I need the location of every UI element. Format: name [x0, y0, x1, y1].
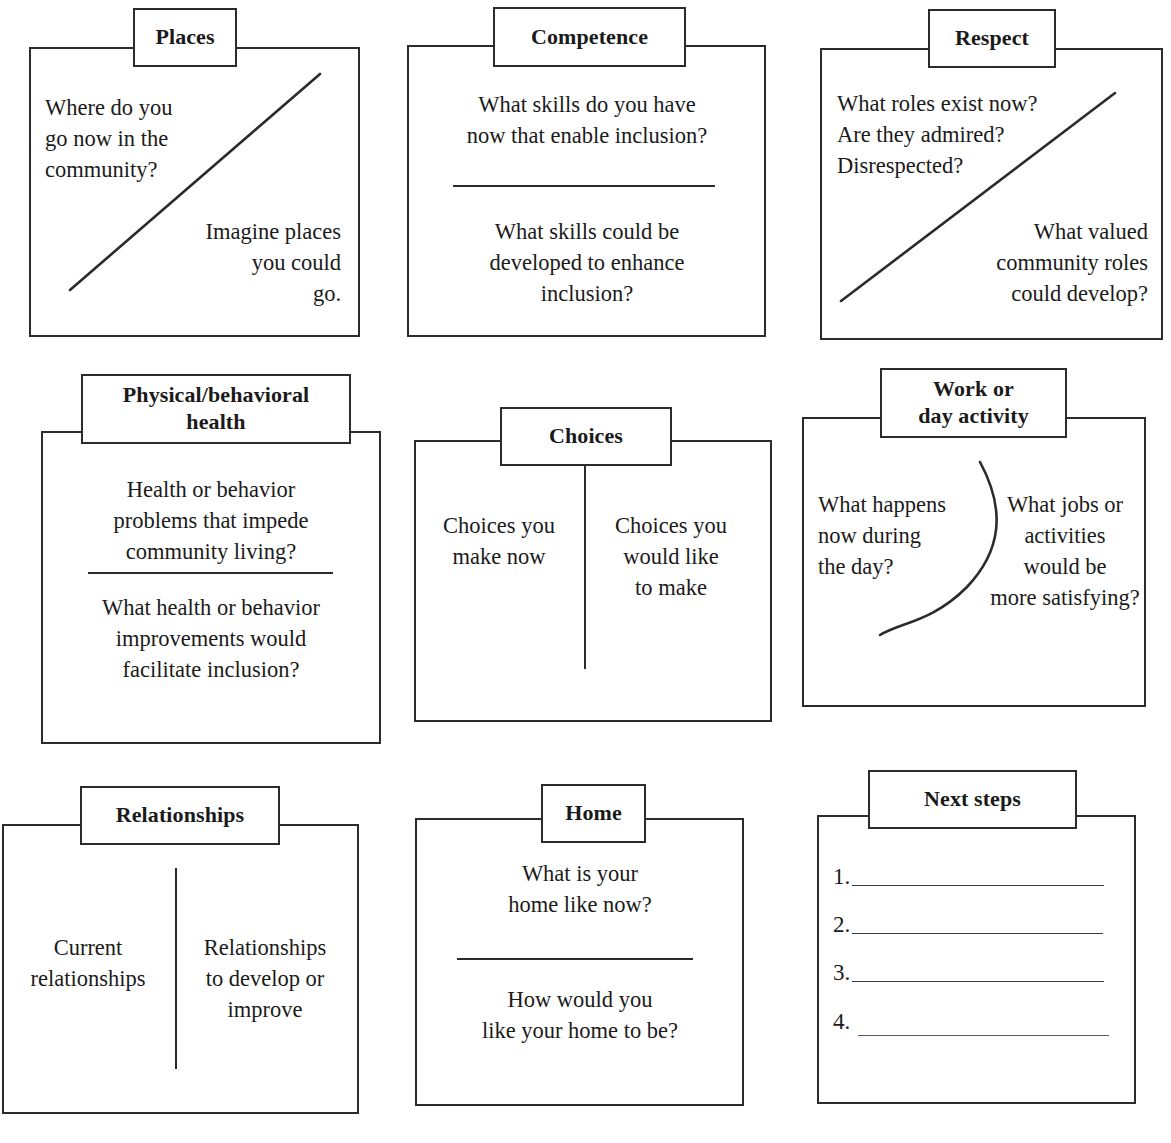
relationships-divider: [175, 868, 177, 1069]
card-title-tab-physical-behavioral-health: Physical/behavioral health: [81, 374, 351, 444]
next-steps-row-1[interactable]: 1.: [833, 865, 1104, 888]
choices-future-question: Choices you would like to make: [592, 510, 750, 603]
home-future-question: How would you like your home to be?: [425, 984, 735, 1046]
places-future-question: Imagine places you could go.: [138, 216, 341, 309]
card-title-tab-competence: Competence: [493, 7, 686, 67]
next-steps-number-4: 4.: [833, 1010, 852, 1033]
card-title-tab-relationships: Relationships: [80, 786, 280, 845]
respect-future-question: What valued community roles could develo…: [905, 216, 1148, 309]
next-steps-row-4[interactable]: 4.: [833, 1010, 1109, 1033]
home-current-question: What is your home like now?: [425, 858, 735, 920]
card-title-competence: Competence: [531, 24, 648, 51]
card-title-tab-work-or-day-activity: Work or day activity: [880, 368, 1067, 438]
next-steps-number-3: 3.: [833, 961, 852, 984]
worksheet-canvas: Places Where do you go now in the commun…: [0, 0, 1171, 1143]
work-or-day-activity-future-question: What jobs or activities would be more sa…: [985, 489, 1145, 613]
next-steps-input-3[interactable]: [852, 981, 1104, 982]
next-steps-row-3[interactable]: 3.: [833, 961, 1104, 984]
card-title-tab-respect: Respect: [928, 9, 1056, 68]
card-title-home: Home: [565, 800, 622, 827]
competence-current-question: What skills do you have now that enable …: [420, 89, 754, 151]
places-current-question: Where do you go now in the community?: [45, 92, 235, 185]
card-title-tab-choices: Choices: [500, 407, 672, 466]
card-next-steps[interactable]: [817, 815, 1136, 1104]
next-steps-number-1: 1.: [833, 865, 852, 888]
choices-divider: [584, 466, 586, 669]
next-steps-input-1[interactable]: [852, 885, 1104, 886]
card-title-tab-places: Places: [133, 8, 237, 67]
work-or-day-activity-current-question: What happens now during the day?: [818, 489, 983, 582]
relationships-future-question: Relationships to develop or improve: [183, 932, 347, 1025]
competence-future-question: What skills could be developed to enhanc…: [420, 216, 754, 309]
card-title-respect: Respect: [955, 25, 1029, 52]
card-title-relationships: Relationships: [116, 802, 244, 829]
card-title-physical-behavioral-health: Physical/behavioral health: [123, 382, 309, 436]
physical-behavioral-health-current-question: Health or behavior problems that impede …: [52, 474, 370, 567]
respect-current-question: What roles exist now? Are they admired? …: [837, 88, 1097, 181]
card-title-choices: Choices: [549, 423, 623, 450]
next-steps-row-2[interactable]: 2.: [833, 913, 1103, 936]
competence-divider: [453, 185, 715, 187]
choices-current-question: Choices you make now: [424, 510, 574, 572]
next-steps-number-2: 2.: [833, 913, 852, 936]
card-title-work-or-day-activity: Work or day activity: [918, 376, 1029, 430]
next-steps-input-4[interactable]: [858, 1035, 1109, 1036]
next-steps-input-2[interactable]: [852, 933, 1103, 934]
card-title-tab-home: Home: [541, 784, 646, 843]
relationships-current-question: Current relationships: [8, 932, 168, 994]
physical-behavioral-health-future-question: What health or behavior improvements wou…: [52, 592, 370, 685]
physical-behavioral-health-divider: [88, 572, 333, 574]
card-title-tab-next-steps: Next steps: [868, 770, 1077, 829]
card-title-next-steps: Next steps: [924, 786, 1021, 813]
home-divider: [457, 958, 693, 960]
card-title-places: Places: [155, 24, 214, 51]
